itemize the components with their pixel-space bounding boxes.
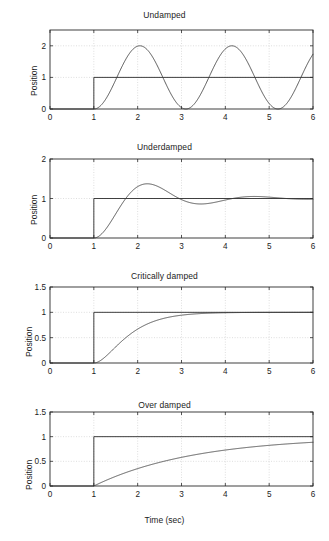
x-tick-label: 5 xyxy=(267,490,272,499)
x-tick-label: 5 xyxy=(267,242,272,251)
y-tick-label: 1.5 xyxy=(35,283,47,292)
x-tick-label: 4 xyxy=(223,490,228,499)
panel-over-damped: Over damped Position 012345600.511.5 Tim… xyxy=(0,396,329,541)
x-tick-label: 6 xyxy=(311,113,316,122)
x-tick-label: 1 xyxy=(92,490,97,499)
plot-area-undamped: 0123456012 xyxy=(0,0,329,130)
y-tick-label: 1 xyxy=(41,195,46,204)
x-tick-label: 4 xyxy=(223,367,228,376)
x-tick-label: 0 xyxy=(48,113,53,122)
y-tick-label: 1 xyxy=(41,308,46,317)
y-tick-label: 0.5 xyxy=(35,457,47,466)
plot-area-underdamped: 0123456012 xyxy=(0,130,329,263)
x-tick-label: 5 xyxy=(267,113,272,122)
x-tick-label: 6 xyxy=(311,242,316,251)
x-tick-label: 4 xyxy=(223,113,228,122)
y-tick-label: 0 xyxy=(41,234,46,243)
panel-critically-damped: Critically damped Position 012345600.511… xyxy=(0,263,329,396)
y-tick-label: 1 xyxy=(41,73,46,82)
panel-undamped: Undamped Position 0123456012 xyxy=(0,0,329,130)
x-tick-label: 4 xyxy=(223,242,228,251)
y-tick-label: 0 xyxy=(41,105,46,114)
y-tick-label: 2 xyxy=(41,42,46,51)
plot-area-critically-damped: 012345600.511.5 xyxy=(0,263,329,396)
y-tick-label: 1 xyxy=(41,433,46,442)
response-curve xyxy=(94,442,313,486)
x-tick-label: 3 xyxy=(179,113,184,122)
x-tick-label: 6 xyxy=(311,490,316,499)
response-curve xyxy=(94,184,313,238)
x-tick-label: 2 xyxy=(135,242,140,251)
y-tick-label: 0.5 xyxy=(35,334,47,343)
y-tick-label: 0 xyxy=(41,359,46,368)
x-tick-label: 0 xyxy=(48,242,53,251)
x-axis-label: Time (sec) xyxy=(0,515,329,525)
x-tick-label: 2 xyxy=(135,367,140,376)
x-tick-label: 0 xyxy=(48,367,53,376)
x-tick-label: 2 xyxy=(135,113,140,122)
y-tick-label: 1.5 xyxy=(35,408,47,417)
x-tick-label: 0 xyxy=(48,490,53,499)
x-tick-label: 2 xyxy=(135,490,140,499)
x-tick-label: 6 xyxy=(311,367,316,376)
x-tick-label: 1 xyxy=(92,367,97,376)
x-tick-label: 5 xyxy=(267,367,272,376)
panel-underdamped: Underdamped Position 0123456012 xyxy=(0,130,329,263)
y-tick-label: 0 xyxy=(41,482,46,491)
x-tick-label: 1 xyxy=(92,113,97,122)
x-tick-label: 3 xyxy=(179,367,184,376)
x-tick-label: 3 xyxy=(179,242,184,251)
figure-canvas: Undamped Position 0123456012 Underdamped… xyxy=(0,0,329,541)
y-tick-label: 2 xyxy=(41,155,46,164)
x-tick-label: 1 xyxy=(92,242,97,251)
x-tick-label: 3 xyxy=(179,490,184,499)
